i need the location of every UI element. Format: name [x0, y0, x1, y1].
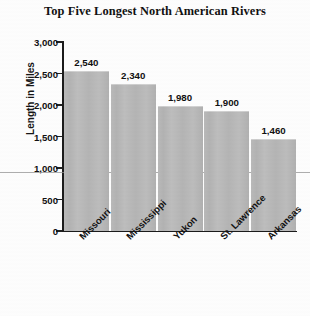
y-axis-tick-label: 3,000 — [34, 37, 58, 48]
chart-title: Top Five Longest North American Rivers — [0, 4, 310, 19]
bar — [158, 106, 203, 231]
y-axis-tick-label: 500 — [42, 194, 58, 205]
bar-value-label: 1,900 — [215, 97, 239, 108]
bar-value-label: 1,980 — [168, 92, 192, 103]
y-axis-tick-label: 2,500 — [34, 68, 58, 79]
y-axis-tick-label: 0 — [53, 226, 58, 237]
bar-chart-figure: Top Five Longest North American Rivers L… — [0, 0, 310, 316]
bar-value-label: 2,340 — [121, 70, 145, 81]
y-axis-tick-label: 2,000 — [34, 100, 58, 111]
y-axis-tick-label: 1,500 — [34, 131, 58, 142]
bar-value-label: 1,460 — [261, 125, 285, 136]
bar-value-label: 2,540 — [74, 57, 98, 68]
